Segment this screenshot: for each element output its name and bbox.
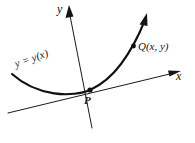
x-axis-label: x: [176, 70, 181, 82]
x-axis-line: [8, 73, 176, 114]
y-axis-arrowhead: [66, 5, 74, 18]
curve-diagram-figure: y x P Q(x, y) y = y(x): [0, 0, 195, 143]
point-q-label: Q(x, y): [138, 41, 169, 52]
point-p-label: P: [84, 95, 91, 106]
point-p-dot: [87, 87, 92, 92]
point-q-dot: [131, 44, 136, 49]
y-axis-label: y: [57, 3, 62, 15]
x-axis-group: [8, 71, 181, 114]
diagram-canvas: [0, 0, 195, 143]
y-axis-line: [70, 13, 93, 128]
curve-arrowhead: [140, 13, 148, 26]
y-axis-group: [66, 5, 93, 128]
